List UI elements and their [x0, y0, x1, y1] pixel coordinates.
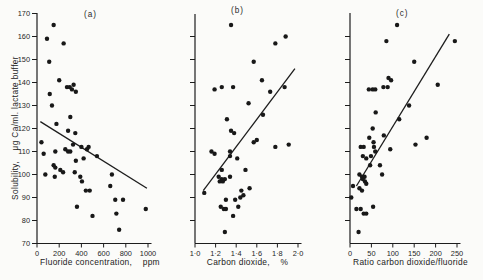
data-point — [48, 92, 52, 96]
data-point — [378, 163, 382, 167]
data-point — [53, 165, 57, 169]
data-point — [246, 101, 250, 105]
data-point — [381, 85, 385, 89]
x-tick-label: 1·0 — [190, 249, 201, 257]
data-point — [223, 230, 227, 234]
x-tick-label: 100 — [387, 249, 399, 257]
data-point — [75, 205, 79, 209]
data-point — [79, 145, 83, 149]
data-point — [84, 188, 88, 192]
x-tick-label: 0 — [35, 249, 39, 257]
data-point — [224, 207, 228, 211]
data-point — [372, 145, 376, 149]
data-point — [412, 60, 416, 64]
data-point — [61, 41, 65, 45]
data-point — [388, 147, 392, 151]
scatter-plot-canvas: 7080901001101201301401501601700200400600… — [0, 0, 483, 256]
data-point — [81, 156, 85, 160]
data-point — [273, 145, 277, 149]
data-point — [371, 140, 375, 144]
data-point — [373, 87, 377, 91]
x-tick-label: 800 — [120, 249, 132, 257]
data-point — [369, 154, 373, 158]
data-point — [407, 103, 411, 107]
data-point — [212, 152, 216, 156]
data-point — [364, 156, 368, 160]
data-point — [287, 142, 291, 146]
data-point — [80, 179, 84, 183]
data-point — [370, 126, 374, 130]
data-point — [384, 39, 388, 43]
y-tick-label: 150 — [18, 55, 30, 64]
x-axis-label-ratio: Ratio carbon dioxide/fluoride — [338, 257, 483, 267]
x-tick-label: 1000 — [140, 249, 156, 257]
y-tick-label: 70 — [22, 239, 30, 248]
data-point — [228, 175, 232, 179]
data-point — [373, 149, 377, 153]
data-point — [424, 136, 428, 140]
x-tick-label: 250 — [451, 249, 463, 257]
y-tick-label: 170 — [18, 9, 30, 18]
data-point — [117, 228, 121, 232]
x-axis-label-fluoride: Fluoride concentration, ppm — [25, 257, 175, 267]
y-tick-label: 160 — [18, 32, 30, 41]
data-point — [144, 207, 148, 211]
data-point — [349, 195, 353, 199]
x-tick-label: 400 — [75, 249, 87, 257]
data-point — [224, 198, 228, 202]
x-tick-label: 0 — [348, 249, 352, 257]
data-point — [57, 78, 61, 82]
data-point — [110, 172, 114, 176]
x-tick-label: 200 — [53, 249, 65, 257]
data-point — [397, 117, 401, 121]
y-tick-label: 120 — [18, 124, 30, 133]
y-tick-label: 140 — [18, 78, 30, 87]
y-tick-label: 80 — [22, 216, 30, 225]
data-point — [231, 214, 235, 218]
data-point — [436, 83, 440, 87]
data-point — [53, 175, 57, 179]
x-tick-label: 1·2 — [210, 249, 221, 257]
data-point — [73, 170, 77, 174]
data-point — [113, 198, 117, 202]
data-point — [413, 142, 417, 146]
data-point — [385, 85, 389, 89]
data-point — [247, 186, 251, 190]
data-point — [225, 117, 229, 121]
data-point — [238, 195, 242, 199]
data-point — [73, 131, 77, 135]
data-point — [389, 78, 393, 82]
y-tick-label: 100 — [18, 170, 30, 179]
data-point — [78, 175, 82, 179]
x-tick-label: 150 — [408, 249, 420, 257]
x-tick-label: 1·4 — [231, 249, 242, 257]
trend-line — [203, 69, 295, 191]
data-point — [283, 34, 287, 38]
x-tick-label: 200 — [429, 249, 441, 257]
data-point — [45, 37, 49, 41]
panel-label-c: (c) — [396, 9, 409, 18]
data-point — [221, 179, 225, 183]
data-point — [231, 85, 235, 89]
data-point — [236, 205, 240, 209]
data-point — [108, 184, 112, 188]
data-point — [90, 214, 94, 218]
data-point — [361, 145, 365, 149]
data-point — [220, 85, 224, 89]
data-point — [453, 39, 457, 43]
data-point — [68, 115, 72, 119]
data-point — [282, 85, 286, 89]
data-point — [351, 184, 355, 188]
data-point — [364, 211, 368, 215]
data-point — [41, 152, 45, 156]
panel-label-b: (b) — [231, 6, 244, 15]
data-point — [53, 149, 57, 153]
data-point — [54, 122, 58, 126]
data-point — [228, 154, 232, 158]
data-point — [364, 182, 368, 186]
panel-label-a: (a) — [84, 10, 97, 19]
data-point — [360, 188, 364, 192]
data-point — [74, 90, 78, 94]
figure: Solubility, μg Ca/ml. lactate buffer 708… — [0, 0, 483, 280]
data-point — [212, 87, 216, 91]
